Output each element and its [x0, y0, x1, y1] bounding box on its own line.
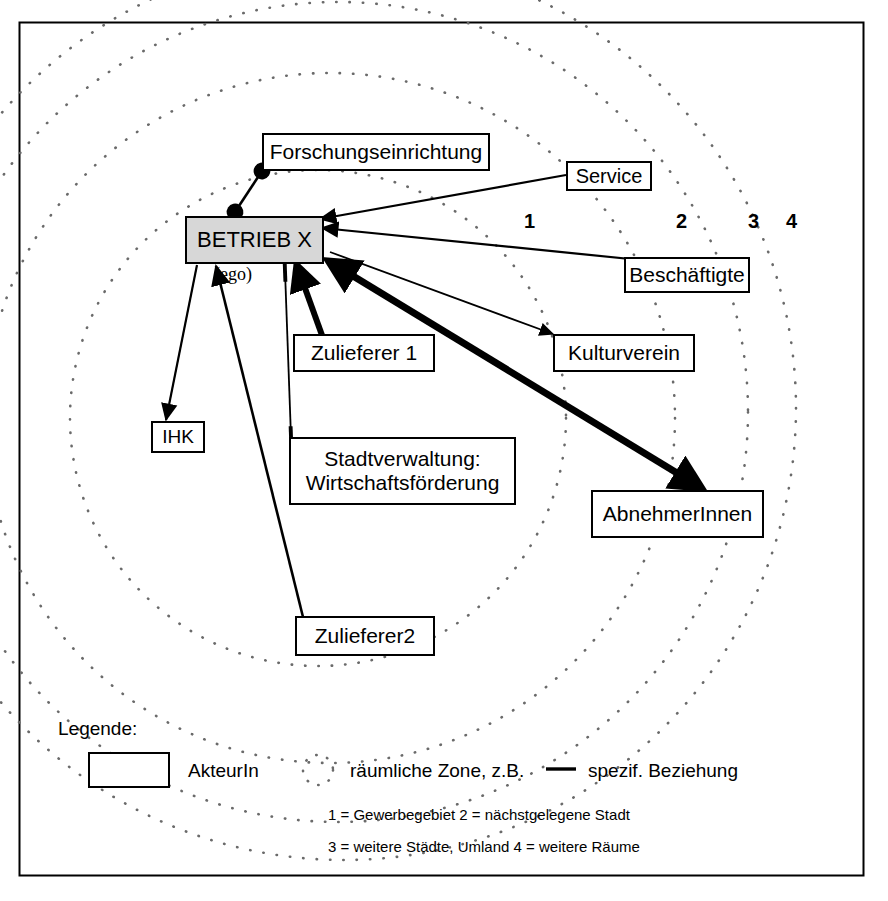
- zone-number-4: 4: [786, 210, 797, 233]
- edge-betrieb-kulturverein: [330, 252, 553, 334]
- node-ihk[interactable]: IHK: [151, 421, 205, 453]
- node-forschungseinrichtung[interactable]: Forschungseinrichtung: [262, 133, 490, 171]
- edge-zulieferer1-betrieb: [297, 266, 323, 338]
- node-kulturverein[interactable]: Kulturverein: [553, 334, 695, 372]
- node-abnehmerinnen[interactable]: AbnehmerInnen: [591, 490, 764, 538]
- legend-actor-label: AkteurIn: [188, 760, 259, 782]
- edge-betrieb-ihk: [166, 265, 197, 420]
- legend-zone-defs-line-2: 3 = weitere Städte, Umland 4 = weitere R…: [328, 838, 640, 855]
- legend-title: Legende:: [58, 718, 137, 740]
- legend-zone-symbol: [303, 755, 333, 785]
- node-service[interactable]: Service: [566, 161, 652, 191]
- legend-zone-label: räumliche Zone, z.B.: [350, 760, 524, 782]
- legend-relation-label: spezif. Beziehung: [588, 760, 738, 782]
- zone-number-1: 1: [524, 210, 535, 233]
- node-betrieb-x-sublabel: (ego): [214, 264, 252, 285]
- node-zulieferer-2[interactable]: Zulieferer2: [295, 616, 435, 656]
- zone-number-3: 3: [748, 210, 759, 233]
- edge-betrieb-stadtverwaltung: [285, 271, 291, 437]
- node-betrieb-x[interactable]: BETRIEB X: [185, 216, 324, 264]
- node-zulieferer-1[interactable]: Zulieferer 1: [293, 334, 435, 372]
- legend-actor-swatch: [88, 752, 170, 788]
- edge-beschaeftigte-betrieb: [322, 228, 660, 262]
- node-beschaeftigte[interactable]: Beschäftigte: [624, 257, 750, 293]
- diagram-canvas: BETRIEB X (ego) Forschungseinrichtung Se…: [0, 0, 888, 901]
- legend-zone-defs-line-1: 1 = Gewerbegebiet 2 = nächstgelegene Sta…: [328, 806, 630, 823]
- edge-forschung-betrieb: [235, 171, 262, 212]
- node-stadtverwaltung[interactable]: Stadtverwaltung: Wirtschaftsförderung: [289, 437, 516, 505]
- zone-circle-3: [0, 2, 748, 822]
- zone-number-2: 2: [676, 210, 687, 233]
